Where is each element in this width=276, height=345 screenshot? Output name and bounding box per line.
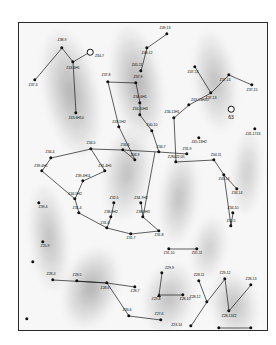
sample-point-label: Z34-6H1: [133, 96, 146, 100]
sample-point-label: Z28-6: [101, 287, 110, 291]
sample-point-label: Z39-4H1: [34, 165, 47, 169]
sample-point-label: Z31-8: [155, 234, 164, 238]
sample-point-label: Z34-4: [46, 151, 55, 155]
sample-point-label: Z34-6: [121, 144, 130, 148]
sample-point-label: 63: [228, 115, 233, 120]
sample-point-label: Z31-5: [227, 220, 236, 224]
sample-point-marker[interactable]: [87, 49, 94, 56]
sample-point-label: Z25-9: [41, 245, 50, 249]
sample-point-label: Z43-6H10: [68, 117, 83, 121]
sample-point-label: Z28-12: [190, 296, 201, 300]
sample-point-label: Z43-5H2: [112, 121, 125, 125]
sample-point-label: Z38-9H3: [136, 211, 149, 215]
map-plot-frame: Z38-9Z34-7Z43-6H1Z37-3Z43-6H10Z49-13Z48-…: [18, 22, 268, 331]
sample-point-label: Z29-9: [165, 267, 174, 271]
sample-point-label: Z39-4: [39, 206, 48, 210]
sample-point-label: Z28-13Z2: [222, 315, 237, 319]
sample-point-label: Z48-12: [142, 52, 153, 56]
traverse-line: [191, 302, 207, 326]
sample-point-label: Z31-4H1: [98, 165, 111, 169]
traverse-line: [199, 279, 225, 302]
sample-point-label: Z31-6: [101, 222, 110, 226]
sample-point-label: ZJS022-05: [168, 156, 185, 160]
sample-point-label: Z40-10: [147, 124, 158, 128]
sample-point-label: Z38-9: [58, 39, 67, 43]
sample-point-label: Z28-13: [246, 278, 257, 282]
sample-point-label: Z41-17Z4: [246, 133, 261, 137]
traverse-line: [229, 285, 251, 311]
sample-point-label: Z28-7: [131, 290, 140, 294]
sample-point-label: Z33-6: [123, 309, 132, 313]
sample-point-label: Z31-10: [164, 252, 175, 256]
sample-point-label: Z31-9: [183, 148, 192, 152]
sample-point-label: Z32-5: [110, 197, 119, 201]
sample-point-label: Z29-8: [152, 298, 161, 302]
traverse-line: [147, 34, 167, 48]
sample-point-label: Z31-4: [73, 207, 82, 211]
sample-point-label: Z31-7: [127, 237, 136, 241]
sample-point-label: Z37-15: [247, 89, 258, 93]
sample-point-label: Z34-7: [157, 146, 166, 150]
traverse-line: [51, 149, 187, 158]
sample-point-label: Z34-7H2: [134, 197, 147, 201]
sample-point-label: Z47-14: [188, 71, 199, 75]
sample-point-label: Z34-10: [228, 207, 239, 211]
sample-point-label: Z34-14: [232, 192, 243, 196]
sample-point-label: Z27-6: [155, 313, 164, 317]
traverse-line: [225, 279, 229, 311]
traverse-line: [176, 160, 237, 189]
sample-point-label: Z37-3: [29, 84, 38, 88]
traverse-line: [107, 203, 131, 234]
sample-point-label: Z28-4: [47, 273, 56, 277]
traverse-line: [35, 48, 76, 113]
sample-point-label: Z49-13: [160, 27, 171, 31]
sample-point-label: Z34-10H3: [132, 108, 147, 112]
traverse-line: [159, 273, 183, 295]
sample-point-label: Z23-14: [171, 324, 182, 328]
sample-point-label: Z38-9H2: [104, 211, 117, 215]
sample-point-label: Z37-9: [134, 76, 143, 80]
sample-point-label: Z34-9: [131, 154, 140, 158]
sample-point-label: Z31-11: [192, 252, 203, 256]
sample-point-label: Z45-13H2: [191, 141, 206, 145]
traverse-line: [107, 283, 135, 287]
sample-point-label: Z41-14: [219, 178, 230, 182]
sample-point-label: Z37-8: [102, 74, 111, 78]
sample-point-label: Z34-7: [95, 55, 104, 59]
sample-point-label: Z28-5: [73, 274, 82, 278]
sample-point-label: Z28-11: [194, 274, 205, 278]
sample-point-marker[interactable]: [228, 106, 235, 113]
traverse-line: [143, 152, 155, 217]
sample-point-label: Z34-5: [87, 142, 96, 146]
sample-point-label: Z43-6H1: [66, 67, 79, 71]
figure-container: Z38-9Z34-7Z43-6H1Z37-3Z43-6H10Z49-13Z48-…: [0, 0, 276, 345]
sample-point-label: Z39-4H11: [76, 175, 91, 179]
sample-point-label: Z45-11: [132, 64, 143, 68]
sample-point-label: Z34-5H2: [68, 193, 81, 197]
traverse-lines-layer: [19, 23, 267, 330]
sample-point-label: Z34-11: [211, 154, 222, 158]
traverse-line: [77, 281, 107, 283]
sample-point-label: Z37-14: [220, 79, 231, 83]
sample-point-label: Z34-11H1: [165, 111, 180, 115]
sample-point-label: Z29-12: [220, 272, 231, 276]
sample-point-label: Z43-13H2D: [191, 99, 209, 103]
